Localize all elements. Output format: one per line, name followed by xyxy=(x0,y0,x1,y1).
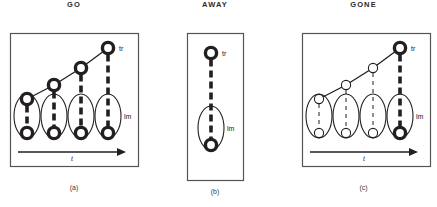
panel-a: GO (a) xyxy=(0,0,148,207)
panel-b-caption: (b) xyxy=(148,188,282,195)
panel-c-caption: (c) xyxy=(290,184,437,191)
panel-a-title: GO xyxy=(0,0,148,9)
panel-b-title: AWAY xyxy=(148,0,282,9)
figure-root: GO (a) AWAY (b) GONE (c) ttrlmtrlmttrlm xyxy=(0,0,437,207)
panel-c: GONE (c) xyxy=(290,0,437,207)
panel-b: AWAY (b) xyxy=(148,0,282,207)
panel-a-caption: (a) xyxy=(0,184,148,191)
panel-c-title: GONE xyxy=(290,0,437,9)
